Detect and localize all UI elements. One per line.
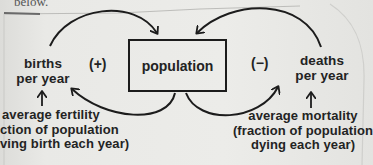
fertility-line-3: ving birth each year) — [0, 137, 129, 152]
births-per-year-label: births per year — [14, 56, 72, 86]
population-label: population — [142, 58, 214, 74]
deaths-line-1: deaths — [290, 53, 354, 68]
births-line-1: births — [14, 56, 72, 71]
average-fertility-label: average fertility ction of population vi… — [0, 108, 129, 152]
births-polarity-sign: (+) — [89, 56, 107, 72]
deaths-per-year-label: deaths per year — [290, 53, 354, 83]
deaths-polarity-sign: (−) — [251, 55, 269, 71]
average-mortality-label: average mortality (fraction of populatio… — [229, 109, 373, 153]
population-stock-box: population — [128, 39, 227, 92]
fertility-line-1: average fertility — [0, 108, 129, 123]
mortality-line-2: (fraction of population — [229, 124, 373, 139]
mortality-line-3: dying each year) — [229, 138, 373, 153]
deaths-line-2: per year — [290, 68, 354, 83]
births-line-2: per year — [14, 71, 72, 86]
fertility-line-2: ction of population — [0, 123, 129, 138]
mortality-line-1: average mortality — [229, 109, 373, 124]
